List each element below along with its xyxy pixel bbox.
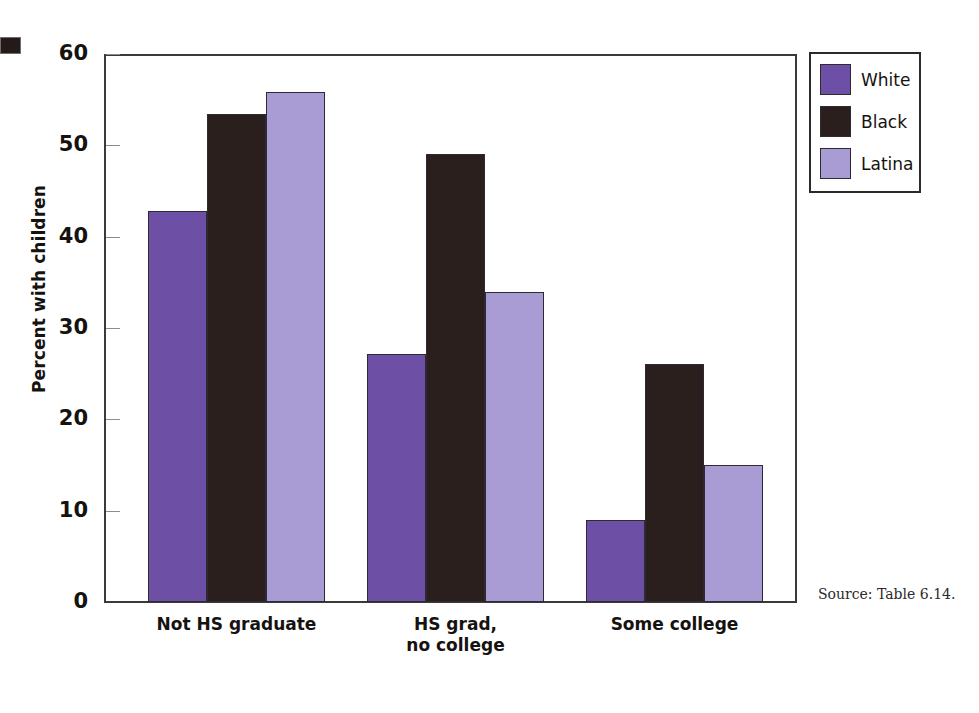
legend-label-black: Black	[861, 112, 907, 132]
y-tick-mark	[106, 419, 120, 420]
x-axis-label-2: HS grad, no college	[336, 614, 576, 656]
black-square-mark	[0, 37, 21, 54]
y-tick-0: 0	[0, 602, 104, 603]
y-tick-60: 60	[0, 54, 104, 55]
bar-latina-group1	[266, 92, 325, 602]
bar-black-group3	[645, 364, 704, 602]
bar-latina-group2	[485, 292, 544, 602]
legend-item-black: Black	[820, 106, 907, 137]
y-tick-label: 30	[59, 315, 88, 339]
y-tick-label: 40	[59, 224, 88, 248]
y-tick-label: 10	[59, 498, 88, 522]
y-axis-title: Percent with children	[29, 129, 49, 449]
legend-label-latina: Latina	[861, 154, 913, 174]
legend-swatch-black	[820, 106, 851, 137]
y-tick-30: 30	[0, 328, 104, 329]
bar-white-group2	[367, 354, 426, 602]
legend: WhiteBlackLatina	[809, 52, 921, 193]
y-tick-mark	[106, 54, 120, 55]
y-tick-20: 20	[0, 419, 104, 420]
figure-container: 0102030405060 Percent with children Not …	[0, 0, 979, 713]
bar-black-group1	[207, 114, 266, 602]
y-tick-label: 0	[73, 589, 88, 613]
source-note: Source: Table 6.14.	[818, 586, 955, 602]
legend-swatch-latina	[820, 148, 851, 179]
y-tick-mark	[106, 328, 120, 329]
y-tick-40: 40	[0, 237, 104, 238]
bar-latina-group3	[704, 465, 763, 602]
y-tick-10: 10	[0, 511, 104, 512]
y-tick-mark	[106, 237, 120, 238]
y-tick-50: 50	[0, 145, 104, 146]
y-tick-label: 60	[59, 41, 88, 65]
y-tick-label: 50	[59, 132, 88, 156]
legend-swatch-white	[820, 64, 851, 95]
bar-white-group3	[586, 520, 645, 602]
bar-white-group1	[148, 211, 207, 602]
y-tick-label: 20	[59, 406, 88, 430]
legend-label-white: White	[861, 70, 910, 90]
legend-item-white: White	[820, 64, 910, 95]
x-axis-label-3: Some college	[555, 614, 795, 635]
bar-black-group2	[426, 154, 485, 602]
y-tick-mark	[106, 511, 120, 512]
legend-item-latina: Latina	[820, 148, 913, 179]
x-axis-label-1: Not HS graduate	[117, 614, 357, 635]
y-tick-mark	[106, 145, 120, 146]
